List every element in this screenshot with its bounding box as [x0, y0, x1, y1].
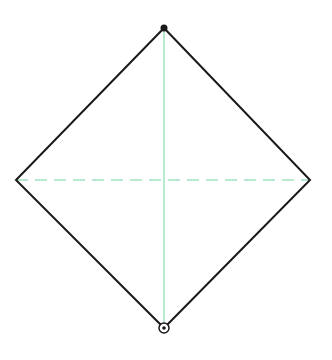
top-vertex-dot: [161, 25, 168, 32]
bottom-vertex-center-dot: [162, 326, 166, 330]
rhombus-diagram: [0, 0, 332, 360]
rhombus-outline: [16, 28, 310, 328]
